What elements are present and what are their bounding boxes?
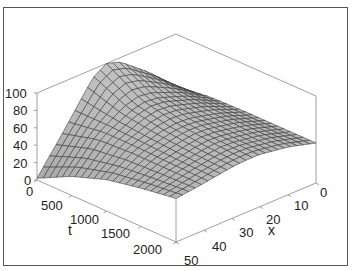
t-tick-1000: 1000 xyxy=(70,212,99,227)
z-tick-80: 80 xyxy=(13,103,27,118)
t-tick-500: 500 xyxy=(41,198,63,213)
t-tick-2000: 2000 xyxy=(133,242,162,257)
x-tick-50: 50 xyxy=(184,253,198,268)
box-edge xyxy=(260,207,263,209)
box-edge xyxy=(104,211,107,213)
box-edge xyxy=(204,230,207,232)
box-edge xyxy=(138,227,141,229)
z-tick-40: 40 xyxy=(13,138,27,153)
box-edge xyxy=(288,195,291,197)
x-axis-label: x xyxy=(268,222,275,238)
x-tick-0: 0 xyxy=(320,185,327,200)
box-edge xyxy=(176,242,179,244)
t-tick-0: 0 xyxy=(26,184,33,199)
t-axis-label: t xyxy=(68,222,72,238)
z-tick-100: 100 xyxy=(5,86,27,101)
box-edge xyxy=(176,34,316,96)
surface-mesh xyxy=(37,62,316,198)
x-tick-30: 30 xyxy=(239,225,253,240)
z-tick-20: 20 xyxy=(13,156,27,171)
box-edge xyxy=(232,218,235,220)
box-edge xyxy=(173,242,176,244)
z-tick-60: 60 xyxy=(13,121,27,136)
x-tick-10: 10 xyxy=(294,198,308,213)
x-tick-40: 40 xyxy=(212,239,226,254)
box-edge xyxy=(316,183,319,185)
t-tick-1500: 1500 xyxy=(101,226,130,241)
surface-plot: 100 80 60 40 20 0 0 500 1000 t 1500 2000… xyxy=(0,0,352,271)
box-edge xyxy=(69,196,72,198)
